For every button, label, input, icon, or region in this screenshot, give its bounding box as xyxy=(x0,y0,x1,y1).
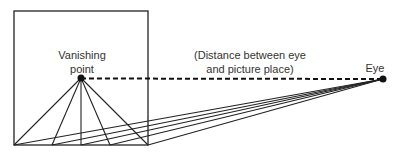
distance-dashed-line xyxy=(81,79,383,80)
perspective-diagram xyxy=(0,0,401,153)
distance-label-line1: (Distance between eye xyxy=(190,48,310,62)
distance-label: (Distance between eye and picture place) xyxy=(190,48,310,76)
vanishing-point-label-line1: Vanishing xyxy=(50,48,114,62)
vanishing-point-label: Vanishing point xyxy=(50,48,114,76)
eye-dot xyxy=(380,76,387,83)
distance-label-line2: and picture place) xyxy=(190,62,310,76)
vanishing-point-label-line2: point xyxy=(50,62,114,76)
eye-label: Eye xyxy=(355,61,395,75)
